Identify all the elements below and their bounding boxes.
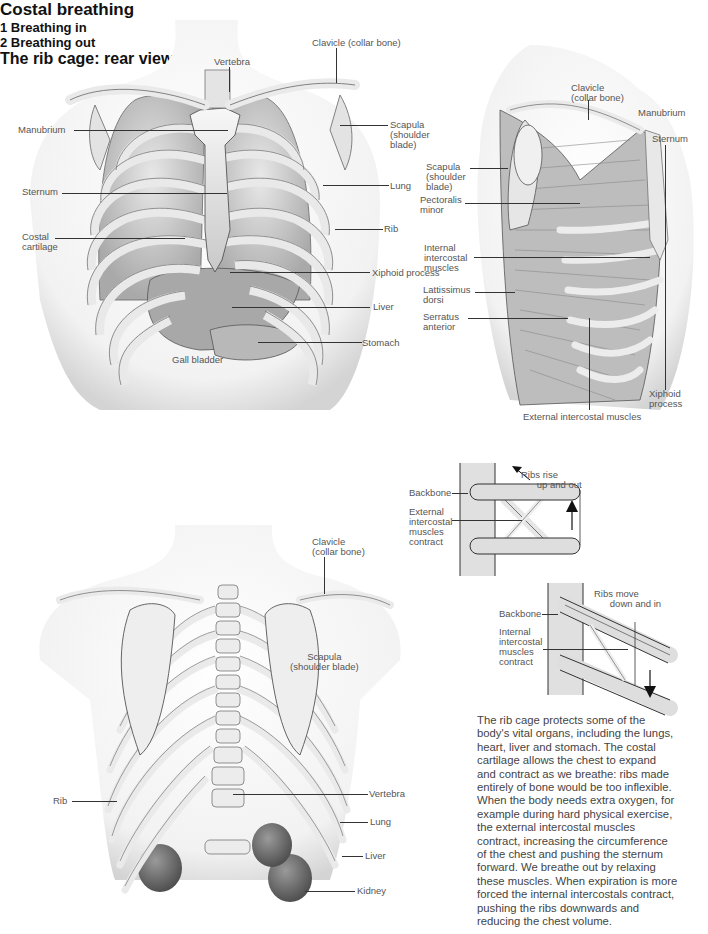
front-label-rib: Rib bbox=[384, 224, 398, 234]
description-line: of the chest and pushing the sternum bbox=[477, 848, 707, 861]
front-leader-lung bbox=[323, 185, 389, 186]
costal-label-lattissimus: Lattissimus dorsi bbox=[423, 285, 471, 305]
costal-leader-serratus bbox=[468, 318, 568, 319]
costal-leader-pectoralis bbox=[465, 203, 580, 204]
costal-label-external-intercostal: External intercostal muscles bbox=[523, 412, 641, 422]
costal-label-manubrium: Manubrium bbox=[638, 108, 686, 118]
costal-label-internal-intercostal: Internal intercostal muscles bbox=[424, 243, 467, 273]
rear-leader-kidney bbox=[305, 891, 355, 892]
front-label-vertebra: Vertebra bbox=[214, 57, 250, 67]
costal-label-xiphoid: Xiphoid process bbox=[649, 389, 682, 409]
breathing-out-label-ribs: Ribs move down and in bbox=[594, 589, 661, 609]
breathing-in-leader-backbone bbox=[452, 493, 468, 494]
rear-label-clavicle: Clavicle (collar bone) bbox=[312, 537, 365, 557]
front-leader-xiphoid bbox=[230, 272, 370, 273]
rear-label-lung: Lung bbox=[370, 817, 391, 827]
description-line: these muscles. When expiration is more bbox=[477, 875, 707, 888]
front-label-sternum: Sternum bbox=[22, 187, 58, 197]
costal-leader-clavicle bbox=[588, 100, 589, 120]
rear-label-liver: Liver bbox=[365, 851, 386, 861]
rear-leader-rib bbox=[72, 801, 117, 802]
front-label-liver: Liver bbox=[373, 302, 394, 312]
description-line: and contract as we breathe: ribs made bbox=[477, 768, 707, 781]
front-label-stomach: Stomach bbox=[362, 338, 400, 348]
costal-leader-external-intercostal bbox=[589, 318, 590, 410]
costal-leader-internal-intercostal bbox=[474, 257, 650, 258]
description-line: example during hard physical exercise, bbox=[477, 808, 707, 821]
rear-leader-liver bbox=[342, 856, 363, 857]
rear-leader-vertebra bbox=[233, 794, 368, 795]
front-label-costal-cartilage: Costal cartilage bbox=[22, 232, 58, 252]
front-label-manubrium: Manubrium bbox=[18, 125, 66, 135]
description-line: contract, increasing the circumference bbox=[477, 835, 707, 848]
front-label-scapula: Scapula (shoulder blade) bbox=[390, 120, 430, 150]
costal-label-serratus: Serratus anterior bbox=[423, 312, 459, 332]
description-line: cartilage allows the chest to expand bbox=[477, 754, 707, 767]
costal-label-scapula: Scapula (shoulder blade) bbox=[426, 162, 466, 192]
description-line: heart, liver and stomach. The costal bbox=[477, 741, 707, 754]
front-leader-clavicle bbox=[336, 48, 337, 83]
breathing-out-label-backbone: Backbone bbox=[499, 609, 541, 619]
costal-leader-lattissimus bbox=[475, 292, 515, 293]
costal-leader-sternum bbox=[665, 145, 666, 390]
front-leader-stomach bbox=[258, 342, 362, 343]
rear-label-kidney: Kidney bbox=[357, 886, 386, 896]
description-line: entirely of bone would be too inflexible… bbox=[477, 781, 707, 794]
description-line: forward. We breathe out by relaxing bbox=[477, 861, 707, 874]
front-leader-rib bbox=[335, 229, 383, 230]
description-line: The rib cage protects some of the bbox=[477, 714, 707, 727]
costal-label-clavicle: Clavicle (collar bone) bbox=[571, 83, 624, 103]
front-leader-manubrium bbox=[74, 130, 228, 131]
breathing-out-label-muscles: Internal intercostal muscles contract bbox=[499, 627, 542, 667]
breathing-in-label-muscles: External intercostal muscles contract bbox=[409, 507, 452, 547]
description-line: the external intercostal muscles bbox=[477, 821, 707, 834]
costal-leader-scapula bbox=[470, 168, 508, 169]
description-line: body's vital organs, including the lungs… bbox=[477, 727, 707, 740]
front-label-clavicle: Clavicle (collar bone) bbox=[312, 38, 401, 48]
front-label-lung: Lung bbox=[390, 181, 411, 191]
costal-label-sternum: Sternum bbox=[652, 134, 688, 144]
description-paragraph: The rib cage protects some of the body's… bbox=[477, 714, 707, 929]
breathing-out-leader-backbone bbox=[542, 614, 558, 615]
rear-leader-clavicle bbox=[324, 557, 325, 594]
front-leader-liver bbox=[232, 307, 370, 308]
costal-label-pectoralis: Pectoralis minor bbox=[420, 195, 462, 215]
breathing-out-leader-muscles bbox=[543, 649, 628, 650]
front-leader-vertebra bbox=[229, 67, 230, 92]
rear-leader-lung bbox=[340, 822, 368, 823]
description-line: forced the internal intercostals contrac… bbox=[477, 888, 707, 901]
breathing-in-leader-muscles bbox=[452, 520, 522, 521]
rear-label-rib: Rib bbox=[53, 796, 67, 806]
front-label-gall-bladder: Gall bladder bbox=[172, 355, 223, 365]
description-line: pushing the ribs downwards and bbox=[477, 902, 707, 915]
breathing-in-label-ribs: Ribs rise up and out bbox=[521, 470, 582, 490]
rear-label-scapula: Scapula (shoulder blade) bbox=[290, 652, 359, 672]
front-leader-sternum bbox=[62, 193, 227, 194]
front-leader-scapula bbox=[340, 125, 388, 126]
description-line: When the body needs extra oxygen, for bbox=[477, 794, 707, 807]
description-line: reducing the chest volume. bbox=[477, 915, 707, 928]
breathing-in-label-backbone: Backbone bbox=[409, 488, 451, 498]
rear-label-vertebra: Vertebra bbox=[369, 789, 405, 799]
front-leader-costal-cartilage bbox=[55, 238, 185, 239]
